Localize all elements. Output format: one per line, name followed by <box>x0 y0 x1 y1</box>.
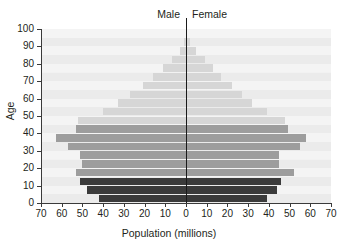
y-tick <box>37 186 41 187</box>
population-pyramid-chart: Male Female 7060504030201001020304050607… <box>0 0 338 251</box>
bar-female-70-74 <box>186 73 221 81</box>
x-tick-label: 40 <box>258 208 280 219</box>
x-tick-label: 50 <box>279 208 301 219</box>
x-tick-label: 20 <box>134 208 156 219</box>
bar-female-80-84 <box>186 56 205 64</box>
x-tick <box>207 203 208 207</box>
x-tick <box>331 203 332 207</box>
bar-male-50-54 <box>103 108 186 116</box>
bar-female-50-54 <box>186 108 267 116</box>
plot-area <box>41 29 331 203</box>
x-tick-label: 30 <box>237 208 259 219</box>
x-tick <box>82 203 83 207</box>
y-tick-label: 0 <box>0 197 34 208</box>
x-tick <box>103 203 104 207</box>
center-axis <box>186 29 187 203</box>
bar-female-5-9 <box>186 186 277 194</box>
bar-female-85-89 <box>186 47 196 55</box>
x-tick <box>124 203 125 207</box>
x-tick-label: 70 <box>30 208 52 219</box>
y-axis-line <box>41 29 42 204</box>
x-tick <box>269 203 270 207</box>
x-tick <box>227 203 228 207</box>
x-tick <box>248 203 249 207</box>
bar-female-30-34 <box>186 143 300 151</box>
bar-male-0-4 <box>99 195 186 203</box>
x-axis-title: Population (millions) <box>0 227 338 239</box>
bar-male-70-74 <box>153 73 186 81</box>
bar-female-0-4 <box>186 195 267 203</box>
bar-male-15-19 <box>76 169 186 177</box>
bar-male-25-29 <box>80 151 186 159</box>
bar-female-40-44 <box>186 125 288 133</box>
y-tick-label: 100 <box>0 23 34 34</box>
x-tick-label: 20 <box>216 208 238 219</box>
x-tick-label: 30 <box>113 208 135 219</box>
y-tick-label: 70 <box>0 75 34 86</box>
legend-label-male: Male <box>140 8 180 20</box>
x-tick <box>310 203 311 207</box>
bar-male-10-14 <box>80 178 186 186</box>
y-tick <box>37 46 41 47</box>
bar-male-75-79 <box>163 64 186 72</box>
y-tick <box>37 133 41 134</box>
y-tick <box>37 151 41 152</box>
bar-male-80-84 <box>172 56 187 64</box>
bar-male-5-9 <box>87 186 186 194</box>
bar-female-20-24 <box>186 160 279 168</box>
legend-label-female: Female <box>192 8 238 20</box>
x-tick-label: 40 <box>92 208 114 219</box>
x-tick <box>186 203 187 207</box>
bar-male-60-64 <box>130 91 186 99</box>
bar-female-35-39 <box>186 134 306 142</box>
x-tick-label: 50 <box>71 208 93 219</box>
bar-female-55-59 <box>186 99 252 107</box>
bar-female-25-29 <box>186 151 279 159</box>
y-tick-label: 30 <box>0 145 34 156</box>
bar-female-15-19 <box>186 169 294 177</box>
x-tick <box>165 203 166 207</box>
x-tick <box>41 203 42 207</box>
y-tick-label: 90 <box>0 40 34 51</box>
y-tick <box>37 29 41 30</box>
bar-female-10-14 <box>186 178 281 186</box>
bar-male-30-34 <box>68 143 186 151</box>
x-tick-label: 0 <box>175 208 197 219</box>
y-tick <box>37 64 41 65</box>
bar-female-60-64 <box>186 91 242 99</box>
y-tick <box>37 99 41 100</box>
bar-male-45-49 <box>78 117 186 125</box>
y-axis-title: Age <box>4 86 16 136</box>
y-tick <box>37 116 41 117</box>
x-tick-label: 70 <box>320 208 338 219</box>
y-tick-label: 20 <box>0 162 34 173</box>
y-tick-label: 10 <box>0 180 34 191</box>
y-tick-label: 80 <box>0 58 34 69</box>
y-tick <box>37 203 41 204</box>
bar-male-55-59 <box>118 99 186 107</box>
bar-male-65-69 <box>143 82 187 90</box>
bar-male-40-44 <box>76 125 186 133</box>
y-tick <box>37 81 41 82</box>
x-tick-label: 10 <box>196 208 218 219</box>
x-tick <box>290 203 291 207</box>
bar-female-65-69 <box>186 82 232 90</box>
x-tick <box>62 203 63 207</box>
bar-female-75-79 <box>186 64 213 72</box>
y-tick <box>37 168 41 169</box>
bar-female-45-49 <box>186 117 285 125</box>
bar-male-20-24 <box>82 160 186 168</box>
x-tick-label: 10 <box>154 208 176 219</box>
x-tick-label: 60 <box>51 208 73 219</box>
bar-male-35-39 <box>56 134 187 142</box>
center-axis-extension <box>186 18 187 29</box>
x-tick <box>145 203 146 207</box>
x-tick-label: 60 <box>299 208 321 219</box>
